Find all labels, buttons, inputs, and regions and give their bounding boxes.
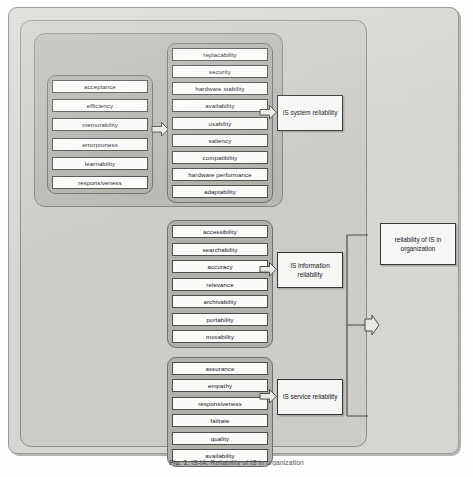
arrow-information-to-outcome-icon: [260, 262, 277, 277]
list-item[interactable]: empathy: [172, 379, 268, 392]
list-item[interactable]: archivability: [172, 295, 268, 308]
arrow-outcomes-to-final-icon: [346, 234, 382, 434]
outcome-is-information-reliability[interactable]: IS information reliability: [277, 252, 343, 288]
figure-panel: acceptance efficiency memorability error…: [8, 7, 459, 454]
figure-caption: Fig. 1. IS-IA. Reliability of IS in orga…: [0, 459, 473, 466]
list-item[interactable]: availability: [172, 99, 268, 112]
list-item[interactable]: security: [172, 65, 268, 78]
list-item[interactable]: assurance: [172, 362, 268, 375]
list-item[interactable]: learnability: [52, 157, 148, 170]
arrow-service-to-outcome-icon: [260, 389, 277, 404]
outcome-is-service-reliability[interactable]: IS service reliability: [277, 379, 343, 415]
list-item[interactable]: accuracy: [172, 260, 268, 273]
arrow-system-to-outcome-icon: [260, 105, 277, 120]
list-item[interactable]: hardware performance: [172, 168, 268, 181]
figure-caption-text: IS-IA. Reliability of IS in organization: [191, 459, 304, 466]
list-item[interactable]: acceptance: [52, 80, 148, 93]
outcome-is-system-reliability[interactable]: IS system reliability: [277, 95, 343, 131]
list-item[interactable]: compatibility: [172, 151, 268, 164]
list-item[interactable]: replacability: [172, 48, 268, 61]
list-item[interactable]: saliency: [172, 134, 268, 147]
list-item[interactable]: accessibility: [172, 225, 268, 238]
list-item[interactable]: responsiveness: [172, 397, 268, 410]
list-item[interactable]: hardware stability: [172, 82, 268, 95]
list-item[interactable]: responsiveness: [52, 176, 148, 189]
figure-caption-label: Fig. 1.: [169, 459, 189, 466]
list-item[interactable]: movability: [172, 330, 268, 343]
list-item[interactable]: failrate: [172, 414, 268, 427]
group-is-service[interactable]: assurance empathy responsiveness failrat…: [167, 357, 273, 467]
figure-scan: acceptance efficiency memorability error…: [0, 0, 473, 477]
group-is-information[interactable]: accessibility searchability accuracy rel…: [167, 220, 273, 348]
list-item[interactable]: searchability: [172, 243, 268, 256]
list-item[interactable]: usability: [172, 117, 268, 130]
list-item[interactable]: efficiency: [52, 99, 148, 112]
outcome-reliability-of-is-in-organization[interactable]: reliability of IS in organization: [380, 223, 456, 265]
list-item[interactable]: relevance: [172, 278, 268, 291]
group-usability[interactable]: acceptance efficiency memorability error…: [47, 75, 153, 194]
list-item[interactable]: portability: [172, 313, 268, 326]
group-is-system[interactable]: replacability security hardware stabilit…: [167, 43, 273, 203]
list-item[interactable]: memorability: [52, 118, 148, 131]
list-item[interactable]: errorproness: [52, 138, 148, 151]
list-item[interactable]: quality: [172, 432, 268, 445]
list-item[interactable]: adaptability: [172, 185, 268, 198]
